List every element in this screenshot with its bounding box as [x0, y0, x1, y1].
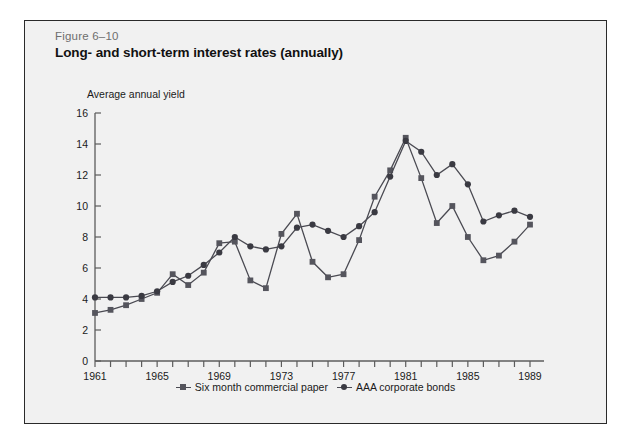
legend-item-commercial-paper: Six month commercial paper [176, 381, 328, 393]
data-point-marker-square [247, 278, 253, 284]
data-point-marker-circle [434, 172, 440, 178]
legend-item-corporate-bonds: AAA corporate bonds [337, 381, 455, 393]
data-point-marker-square [201, 270, 207, 276]
chart-plot-area: 0246810121416196119651969197319771981198… [25, 21, 608, 425]
y-axis-tick-label: 12 [76, 169, 88, 181]
data-point-marker-circle [527, 214, 533, 220]
data-point-marker-circle [480, 218, 486, 224]
data-point-marker-square [310, 259, 316, 265]
legend-circle-marker-icon [337, 383, 352, 392]
data-point-marker-circle [511, 208, 517, 214]
legend-label-corporate-bonds: AAA corporate bonds [356, 381, 455, 393]
data-point-marker-circle [325, 228, 331, 234]
data-point-marker-circle [107, 294, 113, 300]
data-point-marker-circle [278, 243, 284, 249]
y-axis-tick-label: 6 [82, 262, 88, 274]
y-axis-tick-label: 0 [82, 355, 88, 367]
legend-label-commercial-paper: Six month commercial paper [195, 381, 328, 393]
data-point-marker-square [496, 253, 502, 259]
data-point-marker-circle [496, 212, 502, 218]
data-point-marker-circle [154, 288, 160, 294]
data-point-marker-square [185, 282, 191, 288]
series-line-corporate-bonds [95, 141, 530, 298]
data-point-marker-circle [418, 149, 424, 155]
figure-card: Figure 6–10 Long- and short-term interes… [24, 20, 607, 424]
data-point-marker-circle [247, 243, 253, 249]
data-point-marker-circle [216, 249, 222, 255]
interest-rates-line-chart: 0246810121416196119651969197319771981198… [25, 21, 608, 425]
data-point-marker-square [216, 240, 222, 246]
data-point-marker-circle [387, 173, 393, 179]
legend-square-marker-icon [176, 383, 191, 392]
data-point-marker-circle [309, 222, 315, 228]
data-point-marker-circle [403, 138, 409, 144]
data-point-marker-circle [294, 225, 300, 231]
y-axis-tick-label: 14 [76, 138, 88, 150]
y-axis-tick-label: 2 [82, 324, 88, 336]
data-point-marker-square [170, 271, 176, 277]
data-point-marker-circle [170, 279, 176, 285]
data-point-marker-square [434, 220, 440, 226]
data-point-marker-circle [92, 294, 98, 300]
y-axis-tick-label: 16 [76, 107, 88, 119]
data-point-marker-circle [449, 161, 455, 167]
data-point-marker-square [449, 203, 455, 209]
data-point-marker-square [92, 310, 98, 316]
data-point-marker-circle [232, 234, 238, 240]
data-point-marker-square [512, 239, 518, 245]
data-point-marker-circle [185, 273, 191, 279]
data-point-marker-square [279, 231, 285, 237]
data-point-marker-square [480, 257, 486, 263]
data-point-marker-square [123, 302, 129, 308]
data-point-marker-circle [372, 209, 378, 215]
data-point-marker-square [356, 237, 362, 243]
y-axis-tick-label: 10 [76, 200, 88, 212]
data-point-marker-square [294, 211, 300, 217]
data-point-marker-circle [465, 181, 471, 187]
data-point-marker-square [465, 234, 471, 240]
data-point-marker-circle [263, 246, 269, 252]
data-point-marker-square [527, 222, 533, 228]
data-point-marker-square [418, 175, 424, 181]
data-point-marker-square [325, 274, 331, 280]
chart-legend: Six month commercial paper AAA corporate… [25, 381, 606, 393]
y-axis-tick-label: 8 [82, 231, 88, 243]
data-point-marker-square [372, 194, 378, 200]
data-point-marker-square [341, 271, 347, 277]
data-point-marker-square [108, 307, 114, 313]
data-point-marker-circle [123, 294, 129, 300]
data-point-marker-circle [340, 234, 346, 240]
data-point-marker-square [263, 285, 269, 291]
data-point-marker-circle [356, 223, 362, 229]
data-point-marker-circle [201, 262, 207, 268]
data-point-marker-circle [139, 293, 145, 299]
y-axis-tick-label: 4 [82, 293, 88, 305]
